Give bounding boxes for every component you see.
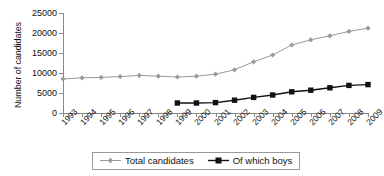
- series-layer: [63, 13, 368, 113]
- data-point-square: [251, 95, 256, 100]
- data-point-diamond: [365, 26, 370, 31]
- data-point-diamond: [156, 74, 161, 79]
- data-point-square: [346, 83, 351, 88]
- legend-label-of-which-boys: Of which boys: [233, 155, 293, 166]
- legend-swatch-diamond-icon: [100, 156, 121, 165]
- data-point-square: [289, 89, 294, 94]
- data-point-diamond: [270, 52, 275, 57]
- data-point-diamond: [232, 67, 237, 72]
- data-point-diamond: [118, 74, 123, 79]
- data-point-square: [232, 98, 237, 103]
- data-point-diamond: [213, 72, 218, 77]
- y-tick-label: 20000: [32, 28, 57, 38]
- data-point-diamond: [251, 59, 256, 64]
- data-point-square: [365, 82, 370, 87]
- data-point-diamond: [289, 42, 294, 47]
- series-total-candidates: [60, 26, 370, 82]
- y-tick-label: 25000: [32, 8, 57, 18]
- data-point-diamond: [99, 75, 104, 80]
- data-point-square: [194, 100, 199, 105]
- data-point-square: [308, 88, 313, 93]
- data-point-diamond: [194, 74, 199, 79]
- y-tick-label: 15000: [32, 48, 57, 58]
- plot-area: 0500010000150002000025000 19931994199519…: [63, 13, 368, 113]
- data-point-square: [175, 100, 180, 105]
- data-point-diamond: [327, 33, 332, 38]
- series-of-which-boys: [175, 82, 371, 106]
- legend-label-total-candidates: Total candidates: [125, 155, 194, 166]
- data-point-diamond: [79, 75, 84, 80]
- legend-item-total-candidates[interactable]: Total candidates: [100, 155, 194, 166]
- legend-item-of-which-boys[interactable]: Of which boys: [208, 155, 293, 166]
- data-point-diamond: [60, 76, 65, 81]
- data-point-diamond: [346, 29, 351, 34]
- chart-legend: Total candidates Of which boys: [92, 152, 300, 170]
- y-tick-label: 5000: [37, 88, 57, 98]
- y-tick-label: 0: [52, 108, 57, 118]
- y-tick-label: 10000: [32, 68, 57, 78]
- data-point-diamond: [137, 73, 142, 78]
- y-axis-title: Number of candidates: [13, 6, 23, 124]
- data-point-square: [327, 85, 332, 90]
- data-point-diamond: [175, 74, 180, 79]
- legend-swatch-square-icon: [208, 156, 229, 165]
- data-point-diamond: [308, 37, 313, 42]
- data-point-square: [270, 92, 275, 97]
- series-line: [63, 28, 368, 79]
- data-point-square: [213, 100, 218, 105]
